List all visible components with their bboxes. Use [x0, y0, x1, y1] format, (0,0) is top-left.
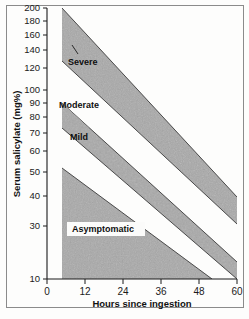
band-label-severe: Severe: [68, 57, 98, 67]
ytick-label: 70: [29, 127, 40, 138]
band-label-asymptomatic: Asymptomatic: [72, 224, 134, 234]
ytick-label: 100: [24, 84, 40, 95]
xtick-label: 12: [79, 286, 91, 297]
xtick-label: 36: [155, 286, 167, 297]
ytick-label: 200: [24, 2, 40, 13]
ytick-label: 60: [29, 145, 40, 156]
ytick-label: 10: [29, 273, 40, 284]
x-axis-ticks: [47, 279, 237, 284]
xtick-label: 0: [44, 286, 50, 297]
y-axis-title: Serum salicylate (mg%): [11, 91, 22, 198]
ytick-label: 160: [24, 29, 40, 40]
y-axis-tick-labels: 200 180 160 140 120 100 90 80 70 60 50 4…: [24, 2, 40, 284]
xtick-label: 24: [117, 286, 129, 297]
ytick-label: 180: [24, 15, 40, 26]
ytick-label: 90: [29, 97, 40, 108]
y-axis-ticks: [43, 8, 47, 279]
ytick-label: 120: [24, 62, 40, 73]
band-label-moderate: Moderate: [59, 100, 99, 110]
ytick-label: 80: [29, 111, 40, 122]
xtick-label: 48: [193, 286, 205, 297]
ytick-label: 40: [29, 190, 40, 201]
band-label-mild: Mild: [70, 132, 88, 142]
ytick-label: 140: [24, 44, 40, 55]
ytick-label: 50: [29, 166, 40, 177]
x-axis-title: Hours since ingestion: [92, 298, 191, 309]
nomogram-plot: 200 180 160 140 120 100 90 80 70 60 50 4…: [0, 0, 249, 319]
salicylate-nomogram-figure: 200 180 160 140 120 100 90 80 70 60 50 4…: [0, 0, 249, 319]
ytick-label: 30: [29, 220, 40, 231]
xtick-label: 60: [231, 286, 243, 297]
x-axis-tick-labels: 0 12 24 36 48 60: [44, 286, 243, 297]
